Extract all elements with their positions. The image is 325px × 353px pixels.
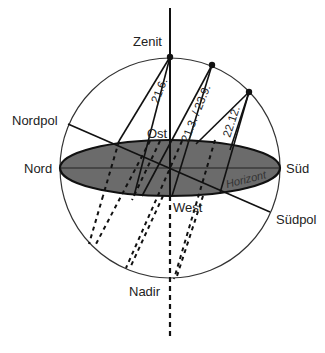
label-suedpol: Südpol xyxy=(276,212,317,227)
label-nordpol: Nordpol xyxy=(12,113,58,128)
label-nadir: Nadir xyxy=(129,284,161,299)
label-sued: Süd xyxy=(286,161,309,176)
label-zenit: Zenit xyxy=(133,34,162,49)
date-label-21-3-23-9: 21.3. / 23.9. xyxy=(179,83,213,144)
zenith-sun-dot xyxy=(167,54,173,60)
label-nord: Nord xyxy=(24,161,52,176)
equinox-sun-dot xyxy=(209,62,215,68)
label-ost: Ost xyxy=(147,126,168,141)
date-label-21-6: 21.6. xyxy=(149,77,170,105)
celestial-sphere-diagram: Zenit Nordpol Ost Nord Süd Horizont West… xyxy=(0,0,325,353)
label-west: West xyxy=(173,200,203,215)
winter-sun-dot xyxy=(246,89,252,95)
